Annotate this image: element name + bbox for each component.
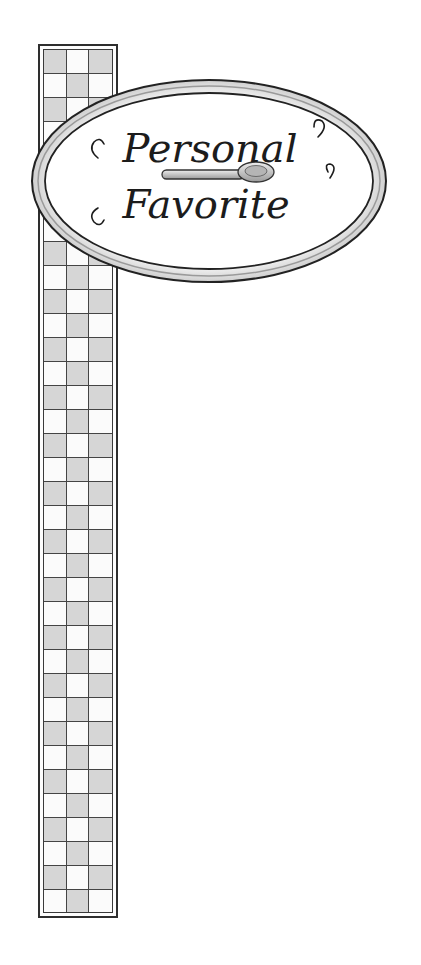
sign-line-personal: Personal: [122, 125, 298, 171]
personal-favorite-sign: Personal Favorite: [0, 0, 421, 965]
sign-line-favorite: Favorite: [121, 181, 289, 227]
